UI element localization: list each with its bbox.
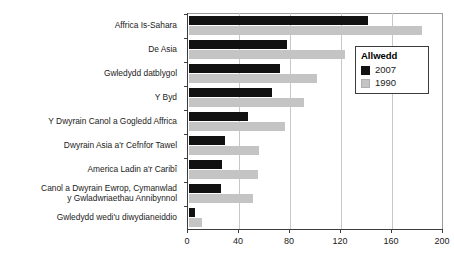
gridline <box>290 13 291 229</box>
bar-1990 <box>189 122 285 131</box>
gridline <box>341 13 342 229</box>
legend-title: Allwedd <box>361 50 423 61</box>
category-label: Y Byd <box>0 92 177 102</box>
bar-1990 <box>189 194 253 203</box>
category-tick-mark <box>184 134 188 135</box>
category-label: America Ladin a'r Caribî <box>0 164 177 174</box>
bar-2007 <box>189 184 221 193</box>
legend-item-1990: 1990 <box>361 77 423 89</box>
x-tick-label: 200 <box>422 236 454 246</box>
x-tick-label: 80 <box>269 236 309 246</box>
category-label: Y Dwyrain Canol a Gogledd Affrica <box>0 116 177 126</box>
bar-2007 <box>189 208 195 217</box>
legend-label-2007: 2007 <box>375 64 396 76</box>
category-tick-mark <box>184 182 188 183</box>
legend-item-2007: 2007 <box>361 64 423 76</box>
category-label: Affrica Is-Sahara <box>0 20 177 30</box>
bar-2007 <box>189 88 272 97</box>
bar-1990 <box>189 26 422 35</box>
x-tick-label: 160 <box>371 236 411 246</box>
category-label: Gwledydd datblygol <box>0 68 177 78</box>
x-tick-mark <box>340 229 341 233</box>
x-tick-mark <box>442 229 443 233</box>
x-tick-mark <box>391 229 392 233</box>
legend-swatch-1990 <box>361 79 370 88</box>
category-tick-mark <box>184 14 188 15</box>
bar-1990 <box>189 98 304 107</box>
x-axis-line <box>187 229 443 230</box>
category-tick-mark <box>184 86 188 87</box>
x-tick-label: 0 <box>167 236 207 246</box>
category-tick-mark <box>184 158 188 159</box>
category-label: Canol a Dwyrain Ewrop, Cymanwlad y Gwlad… <box>0 183 177 203</box>
bar-1990 <box>189 146 259 155</box>
bar-2007 <box>189 112 248 121</box>
bar-2007 <box>189 64 280 73</box>
bar-1990 <box>189 170 258 179</box>
bar-2007 <box>189 136 225 145</box>
bar-2007 <box>189 160 222 169</box>
x-tick-mark <box>289 229 290 233</box>
bar-1990 <box>189 218 202 227</box>
legend-label-1990: 1990 <box>375 77 396 89</box>
category-axis-labels: Affrica Is-SaharaDe AsiaGwledydd datblyg… <box>0 13 182 229</box>
bar-1990 <box>189 74 317 83</box>
category-tick-mark <box>184 206 188 207</box>
x-tick-mark <box>187 229 188 233</box>
bar-2007 <box>189 16 368 25</box>
legend: Allwedd 2007 1990 <box>355 46 429 94</box>
category-label: Gwledydd wedi'u diwydianeiddio <box>0 212 177 222</box>
category-label: Dwyrain Asia a'r Cefnfor Tawel <box>0 140 177 150</box>
category-tick-mark <box>184 38 188 39</box>
x-tick-label: 40 <box>218 236 258 246</box>
legend-swatch-2007 <box>361 66 370 75</box>
bar-1990 <box>189 50 345 59</box>
bar-2007 <box>189 40 287 49</box>
category-tick-mark <box>184 110 188 111</box>
category-tick-mark <box>184 62 188 63</box>
category-label: De Asia <box>0 44 177 54</box>
x-tick-mark <box>238 229 239 233</box>
x-tick-label: 120 <box>320 236 360 246</box>
